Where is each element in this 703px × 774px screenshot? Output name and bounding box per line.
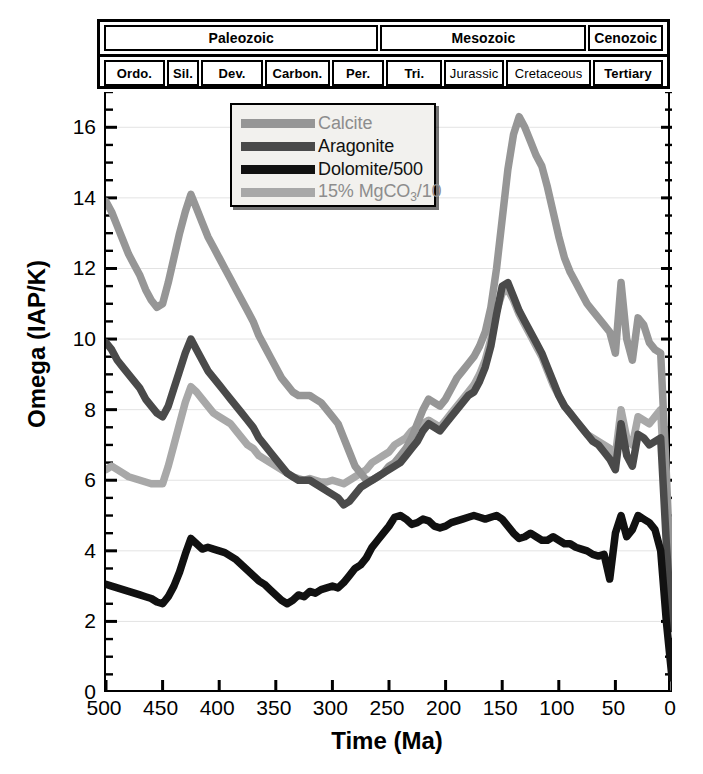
omega-saturation-figure: PaleozoicMesozoicCenozoic Ordo.Sil.Dev.C… xyxy=(0,0,703,774)
legend-item: 15% MgCO3/10 xyxy=(241,181,434,204)
x-tick-label: 50 xyxy=(602,696,625,720)
y-tick-label: 12 xyxy=(56,256,96,280)
y-axis-title: Omega (IAP/K) xyxy=(23,219,51,469)
x-axis-tick-labels: 500450400350300250200150100500 xyxy=(104,696,670,726)
y-tick-label: 2 xyxy=(56,609,96,633)
series-line-dolomite-500 xyxy=(106,516,672,678)
y-axis-tick-labels: 0246810121416 xyxy=(52,92,96,692)
x-axis-title: Time (Ma) xyxy=(104,727,670,755)
x-tick-label: 200 xyxy=(426,696,461,720)
y-tick-label: 8 xyxy=(56,398,96,422)
legend-item: Dolomite/500 xyxy=(241,158,434,181)
legend-item: Calcite xyxy=(241,112,434,135)
y-tick-label: 4 xyxy=(56,539,96,563)
y-tick-label: 10 xyxy=(56,327,96,351)
timescale-cell-tri: Tri. xyxy=(386,60,442,86)
legend-label: 15% MgCO3/10 xyxy=(318,181,442,204)
legend-swatch-icon xyxy=(241,142,315,151)
x-tick-label: 300 xyxy=(313,696,348,720)
x-tick-label: 400 xyxy=(200,696,235,720)
timescale-cell-cretaceous: Cretaceous xyxy=(506,60,591,86)
x-tick-label: 100 xyxy=(539,696,574,720)
timescale-cell-ordo: Ordo. xyxy=(104,60,165,86)
legend-label: Calcite xyxy=(318,113,372,134)
legend-swatch-icon xyxy=(241,188,315,197)
timescale-cell-tertiary: Tertiary xyxy=(593,60,663,86)
x-tick-label: 150 xyxy=(483,696,518,720)
timescale-cell-sil: Sil. xyxy=(167,60,199,86)
timescale-cell-paleozoic: Paleozoic xyxy=(104,25,378,51)
y-tick-label: 16 xyxy=(56,115,96,139)
legend-swatch-icon xyxy=(241,119,315,128)
y-tick-label: 6 xyxy=(56,468,96,492)
x-tick-label: 0 xyxy=(664,696,676,720)
timescale-era-row: PaleozoicMesozoicCenozoic xyxy=(100,22,667,54)
x-tick-label: 350 xyxy=(256,696,291,720)
y-tick-label: 14 xyxy=(56,186,96,210)
timescale-cell-cenozoic: Cenozoic xyxy=(588,25,663,51)
legend-item: Aragonite xyxy=(241,135,434,158)
timescale-cell-dev: Dev. xyxy=(201,60,263,86)
chart-legend: CalciteAragoniteDolomite/50015% MgCO3/10 xyxy=(230,103,436,207)
timescale-cell-per: Per. xyxy=(332,60,385,86)
x-tick-label: 500 xyxy=(86,696,121,720)
legend-label: Aragonite xyxy=(318,136,394,157)
x-tick-label: 450 xyxy=(143,696,178,720)
geologic-timescale: PaleozoicMesozoicCenozoic Ordo.Sil.Dev.C… xyxy=(97,19,670,89)
x-tick-label: 250 xyxy=(369,696,404,720)
legend-label: Dolomite/500 xyxy=(318,159,423,180)
timescale-cell-carbon: Carbon. xyxy=(265,60,330,86)
timescale-cell-mesozoic: Mesozoic xyxy=(380,25,586,51)
legend-swatch-icon xyxy=(241,165,315,174)
timescale-cell-jurassic: Jurassic xyxy=(444,60,504,86)
timescale-period-row: Ordo.Sil.Dev.Carbon.Per.Tri.JurassicCret… xyxy=(100,54,667,89)
